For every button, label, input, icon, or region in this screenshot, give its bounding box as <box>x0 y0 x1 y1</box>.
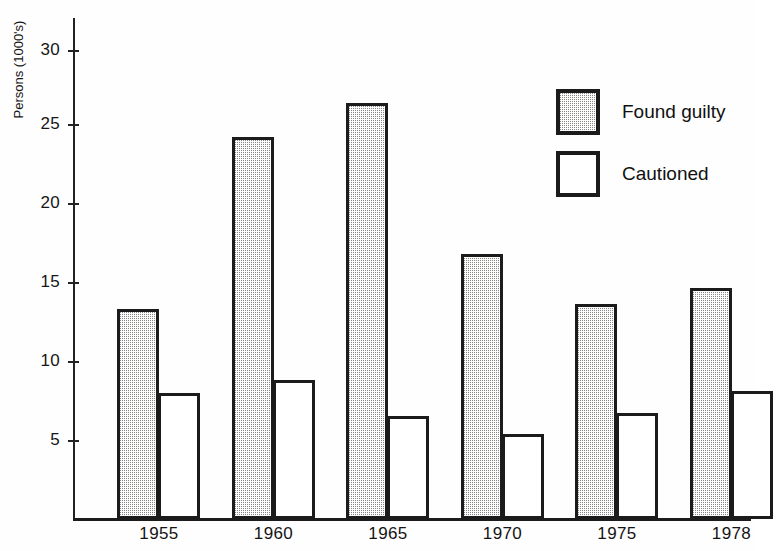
x-tick-label-1975: 1975 <box>572 524 662 544</box>
legend-label-found-guilty: Found guilty <box>622 101 726 123</box>
legend-entry-found-guilty: Found guilty <box>556 88 726 136</box>
y-tick-25 <box>68 124 79 126</box>
bar-cautioned-1975 <box>616 413 658 519</box>
y-tick-30 <box>68 50 79 52</box>
x-tick-label-1970: 1970 <box>458 524 548 544</box>
y-tick-20 <box>68 203 79 205</box>
x-tick-label-1978: 1978 <box>687 524 777 544</box>
y-axis-line <box>73 18 75 520</box>
chart-legend: Found guilty Cautioned <box>556 88 726 212</box>
legend-entry-cautioned: Cautioned <box>556 150 726 198</box>
bar-cautioned-1970 <box>502 434 544 519</box>
x-tick-label-1965: 1965 <box>343 524 433 544</box>
y-tick-5 <box>68 440 79 442</box>
bar-found-guilty-1960 <box>232 137 274 519</box>
x-tick-label-1960: 1960 <box>229 524 319 544</box>
bar-found-guilty-1965 <box>346 103 388 519</box>
y-tick-10 <box>68 361 79 363</box>
legend-label-cautioned: Cautioned <box>622 163 709 185</box>
x-tick-label-1955: 1955 <box>114 524 204 544</box>
y-tick-label-5: 5 <box>8 430 60 450</box>
legend-swatch-open-square-swatch <box>556 151 600 197</box>
legend-swatch-shaded-square-swatch <box>556 89 600 135</box>
bar-found-guilty-1978 <box>690 288 732 519</box>
y-tick-label-10: 10 <box>8 351 60 371</box>
y-tick-label-30: 30 <box>8 40 60 60</box>
y-tick-label-25: 25 <box>8 114 60 134</box>
bar-found-guilty-1970 <box>461 254 503 519</box>
bar-cautioned-1955 <box>158 393 200 519</box>
y-tick-label-20: 20 <box>8 193 60 213</box>
bar-found-guilty-1975 <box>575 304 617 519</box>
y-tick-15 <box>68 282 79 284</box>
bar-cautioned-1965 <box>387 416 429 519</box>
y-tick-label-15: 15 <box>8 272 60 292</box>
bar-cautioned-1978 <box>731 391 773 519</box>
bar-found-guilty-1955 <box>117 309 159 519</box>
bar-cautioned-1960 <box>273 380 315 519</box>
